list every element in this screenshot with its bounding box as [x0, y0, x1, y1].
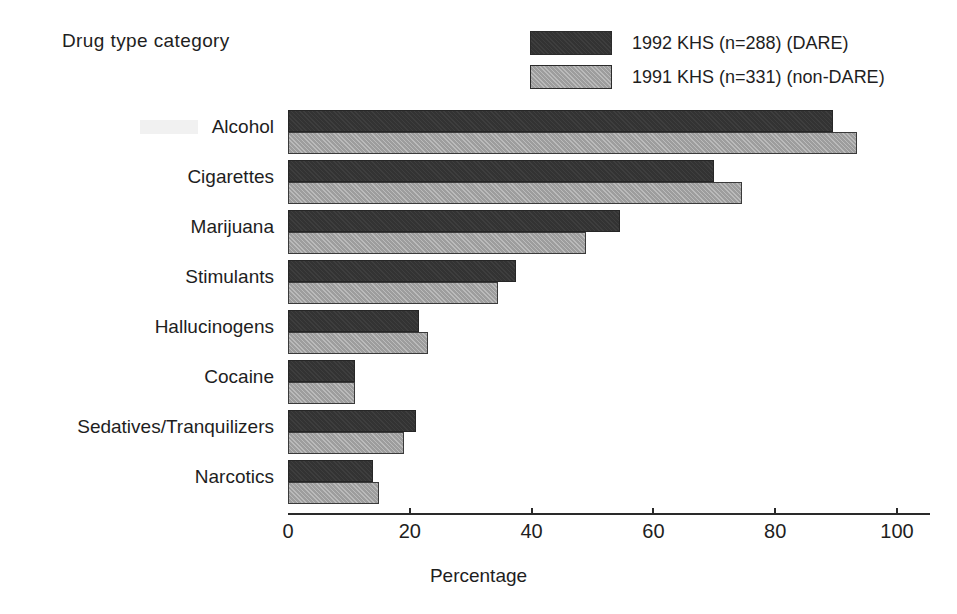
- bar-light: [288, 132, 857, 154]
- bar-dark: [288, 110, 833, 132]
- bar-group: Narcotics: [288, 458, 897, 508]
- tick-label: 0: [282, 520, 293, 543]
- chart-figure: Drug type category 1992 KHS (n=288) (DAR…: [0, 0, 957, 614]
- bar-dark: [288, 360, 355, 382]
- bar-light: [288, 332, 428, 354]
- bar-dark: [288, 310, 419, 332]
- tick-label: 40: [520, 520, 542, 543]
- bar-dark: [288, 410, 416, 432]
- legend-swatch-dark-icon: [530, 31, 612, 55]
- tick-label: 80: [764, 520, 786, 543]
- bar-light: [288, 232, 586, 254]
- tick-label: 20: [399, 520, 421, 543]
- tick-label: 60: [642, 520, 664, 543]
- bar-dark: [288, 260, 516, 282]
- tick-mark: [774, 508, 776, 515]
- bar-group: Sedatives/Tranquilizers: [288, 408, 897, 458]
- bar-group: Hallucinogens: [288, 308, 897, 358]
- bar-light: [288, 382, 355, 404]
- x-axis-ticks: 020406080100: [288, 508, 897, 558]
- bar-dark: [288, 160, 714, 182]
- x-axis-title: Percentage: [0, 565, 957, 587]
- bar-light: [288, 282, 498, 304]
- bar-light: [288, 182, 742, 204]
- legend-label-1991-non-dare: 1991 KHS (n=331) (non-DARE): [632, 67, 885, 88]
- category-label: Marijuana: [191, 216, 274, 238]
- chart-legend: 1992 KHS (n=288) (DARE) 1991 KHS (n=331)…: [530, 26, 950, 94]
- category-label: Alcohol: [212, 116, 274, 138]
- tick-mark: [531, 508, 533, 515]
- tick-mark: [652, 508, 654, 515]
- bar-dark: [288, 210, 620, 232]
- category-label: Hallucinogens: [155, 316, 274, 338]
- tick-mark: [896, 508, 898, 515]
- bar-group: Stimulants: [288, 258, 897, 308]
- bar-dark: [288, 460, 373, 482]
- bar-group: Cocaine: [288, 358, 897, 408]
- legend-item-1991-non-dare: 1991 KHS (n=331) (non-DARE): [530, 60, 950, 94]
- category-label: Sedatives/Tranquilizers: [77, 416, 274, 438]
- tick-mark: [409, 508, 411, 515]
- legend-swatch-light-icon: [530, 65, 612, 89]
- tick-label: 100: [880, 520, 913, 543]
- bar-light: [288, 482, 379, 504]
- scan-artifact: [140, 120, 198, 134]
- legend-label-1992-dare: 1992 KHS (n=288) (DARE): [632, 33, 849, 54]
- bar-group: Marijuana: [288, 208, 897, 258]
- category-label: Narcotics: [195, 466, 274, 488]
- y-axis-title: Drug type category: [62, 30, 230, 52]
- bar-group: Cigarettes: [288, 158, 897, 208]
- plot-area: AlcoholCigarettesMarijuanaStimulantsHall…: [288, 108, 897, 508]
- bar-light: [288, 432, 404, 454]
- category-label: Cigarettes: [187, 166, 274, 188]
- category-label: Cocaine: [204, 366, 274, 388]
- category-label: Stimulants: [185, 266, 274, 288]
- legend-item-1992-dare: 1992 KHS (n=288) (DARE): [530, 26, 950, 60]
- bar-group: Alcohol: [288, 108, 897, 158]
